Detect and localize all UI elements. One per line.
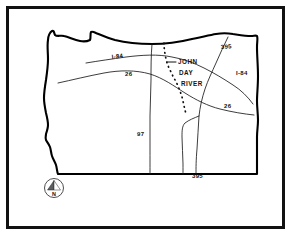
compass-rose: N (45, 179, 64, 198)
river-label-line-2: DAY (179, 69, 194, 76)
map-label-us97-south: 97 (137, 131, 145, 137)
compass-north-letter: N (52, 191, 56, 197)
map-figure-page: I-84 26 395 I-84 26 97 395 JOHN DAY RIVE… (0, 0, 291, 235)
map-label-i84-east: I-84 (236, 70, 248, 76)
oregon-map-drawing: I-84 26 395 I-84 26 97 395 JOHN DAY RIVE… (0, 0, 291, 235)
map-label-us395-south: 395 (192, 173, 203, 179)
map-label-us26-east: 26 (224, 103, 232, 109)
map-label-us395-north: 395 (221, 43, 233, 50)
river-label-line-3: RIVER (181, 80, 203, 87)
river-label-line-1: JOHN (178, 58, 198, 65)
map-label-us26-west: 26 (125, 71, 133, 77)
